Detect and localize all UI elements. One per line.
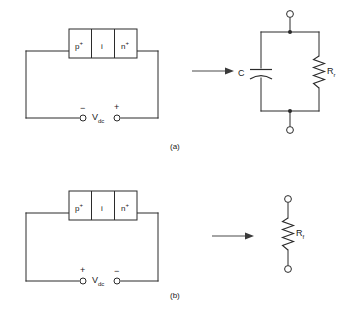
junction-a-eq-top (288, 30, 292, 34)
pin-region-label-i-b: i (101, 202, 103, 213)
panel-b-arrow (212, 233, 254, 240)
resistor-b-label: Rf (296, 229, 304, 240)
junction-a-eq-bottom (288, 109, 292, 113)
resistor-a-label: Rr (327, 67, 336, 78)
source-a-voltage-label: Vdc (92, 113, 104, 124)
source-b-terminal-positive (80, 278, 86, 284)
pin-region-label-p-b: p+ (75, 202, 83, 213)
terminal-b-eq-top (285, 196, 292, 203)
arrow-a-head (225, 68, 234, 75)
source-b-sign-left: + (80, 266, 85, 275)
pin-region-label-n-a: n+ (121, 40, 129, 51)
caption-panel-b: (b) (170, 292, 180, 300)
terminal-b-eq-bottom (285, 266, 292, 273)
resistor-b-zigzag (283, 218, 294, 250)
source-a-sign-left: − (80, 104, 85, 113)
source-a-terminal-positive (114, 115, 120, 121)
capacitor-a-label: C (238, 69, 245, 80)
panel-a-arrow (192, 68, 234, 75)
source-a-terminal-negative (80, 115, 86, 121)
panel-b-bias-circuit (26, 191, 158, 284)
pin-diode-figure: p+ i n+ − + Vdc C Rr (a) p+ i n+ + − Vdc… (0, 0, 342, 309)
circuit-canvas (0, 0, 342, 309)
resistor-a-zigzag (314, 56, 325, 88)
panel-a-equivalent-circuit (250, 11, 325, 134)
caption-panel-a: (a) (170, 143, 180, 151)
terminal-a-eq-top (287, 11, 294, 18)
source-a-sign-right: + (114, 103, 119, 112)
panel-b-equivalent-circuit (283, 196, 294, 273)
source-b-voltage-label: Vdc (92, 276, 104, 287)
pin-region-label-p-a: p+ (75, 40, 83, 51)
panel-a-bias-circuit (26, 29, 158, 121)
source-b-sign-right: − (114, 267, 119, 276)
source-b-terminal-negative (114, 278, 120, 284)
pin-region-label-i-a: i (101, 40, 103, 51)
terminal-a-eq-bottom (287, 127, 294, 134)
pin-region-label-n-b: n+ (121, 202, 129, 213)
arrow-b-head (245, 233, 254, 240)
